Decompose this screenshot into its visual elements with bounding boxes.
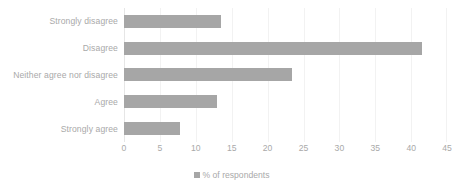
category-label-agree: Agree	[0, 88, 118, 115]
bar-row-neither-agree-nor-disagree	[124, 62, 447, 89]
x-tick-35: 35	[371, 143, 381, 153]
bar-chart: Strongly disagree Disagree Neither agree…	[0, 0, 463, 195]
bar-strongly-agree	[124, 122, 180, 135]
x-tick-15: 15	[227, 143, 237, 153]
x-tick-20: 20	[263, 143, 273, 153]
category-label-neither-agree-nor-disagree: Neither agree nor disagree	[0, 62, 118, 89]
bar-disagree	[124, 42, 422, 55]
bar-row-agree	[124, 88, 447, 115]
x-tick-10: 10	[191, 143, 201, 153]
bar-strongly-disagree	[124, 15, 221, 28]
chart-legend: % of respondents	[0, 170, 463, 180]
bar-neither-agree-nor-disagree	[124, 68, 292, 81]
plot-area	[124, 8, 447, 142]
x-tick-40: 40	[406, 143, 416, 153]
x-tick-45: 45	[442, 143, 452, 153]
category-label-strongly-disagree: Strongly disagree	[0, 8, 118, 35]
bar-agree	[124, 95, 217, 108]
bar-row-strongly-agree	[124, 115, 447, 142]
category-label-strongly-agree: Strongly agree	[0, 115, 118, 142]
value-axis-ticks: 0 5 10 15 20 25 30 35 40 45	[124, 143, 447, 157]
legend-swatch-icon	[194, 172, 200, 178]
legend-label-pct-of-respondents: % of respondents	[203, 170, 270, 180]
bar-series	[124, 8, 447, 142]
category-axis-labels: Strongly disagree Disagree Neither agree…	[0, 8, 118, 142]
x-tick-25: 25	[299, 143, 309, 153]
x-tick-0: 0	[122, 143, 127, 153]
bar-row-strongly-disagree	[124, 8, 447, 35]
category-label-disagree: Disagree	[0, 35, 118, 62]
bar-row-disagree	[124, 35, 447, 62]
x-tick-5: 5	[158, 143, 163, 153]
x-tick-30: 30	[335, 143, 345, 153]
